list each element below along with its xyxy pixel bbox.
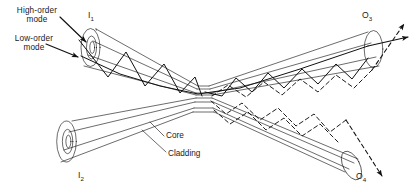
ray-coupled-lower-zigzag — [214, 110, 338, 142]
label-input-2: I2 — [78, 171, 84, 183]
label-output-4: O4 — [356, 172, 366, 184]
label-input-1: I1 — [88, 11, 94, 23]
label-low-order-mode-line2: mode — [5, 43, 63, 52]
ray-output-o4-dashed — [346, 120, 382, 176]
fiber-coupler-illustration — [0, 0, 419, 195]
ray-high-order-zigzag-right — [205, 58, 368, 96]
label-high-order-mode: High-order mode — [8, 6, 66, 24]
leader-cladding — [142, 130, 166, 152]
label-input-2-subscript: 2 — [80, 175, 83, 182]
coupler-waist — [193, 86, 214, 112]
ray-high-order-zigzag-left — [79, 40, 202, 96]
label-output-4-letter: O — [356, 171, 363, 181]
ray-low-order-axial — [81, 46, 368, 94]
label-output-3-letter: O — [362, 10, 369, 20]
label-low-order-mode-line1: Low-order — [5, 34, 63, 43]
label-high-order-mode-line2: mode — [8, 15, 66, 24]
figure-canvas: High-order mode Low-order mode I1 I2 O3 … — [0, 0, 419, 195]
label-low-order-mode: Low-order mode — [5, 34, 63, 52]
label-output-3: O3 — [362, 11, 372, 23]
fiber-lower-right — [212, 98, 366, 183]
label-core: Core — [166, 131, 184, 140]
label-input-1-subscript: 1 — [90, 15, 93, 22]
ray-output-o3-dashed — [372, 24, 404, 70]
label-output-4-subscript: 4 — [363, 176, 366, 183]
fiber-upper-left — [81, 29, 198, 96]
label-output-3-subscript: 3 — [369, 15, 372, 22]
ray-output-o3-solid — [368, 37, 408, 46]
ray-coupled-upper-right — [212, 70, 372, 97]
label-high-order-mode-line1: High-order — [8, 6, 66, 15]
label-cladding: Cladding — [168, 149, 200, 158]
